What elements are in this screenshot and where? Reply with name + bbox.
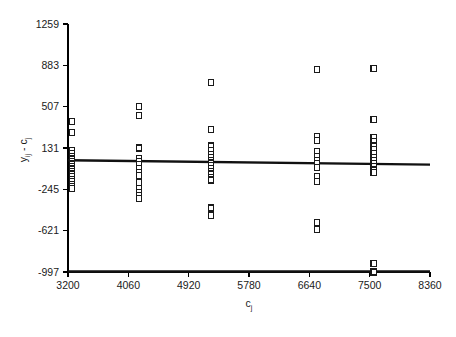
x-axis-ticks: 3200406049205780664075008360 <box>56 272 442 291</box>
y-tick-label: 883 <box>41 59 59 71</box>
x-tick-label: 8360 <box>418 279 442 291</box>
x-axis-title-text: cj <box>246 297 253 312</box>
data-markers-group <box>69 65 376 275</box>
data-point-marker <box>209 126 214 132</box>
data-point-marker <box>314 164 319 170</box>
y-axis-title-text: yij - cj <box>17 137 32 162</box>
x-tick-label: 7500 <box>358 279 382 291</box>
data-point-marker <box>314 219 319 225</box>
data-point-marker <box>314 137 319 143</box>
data-point-marker <box>371 117 376 123</box>
data-point-marker <box>314 67 319 73</box>
data-point-marker <box>209 79 214 85</box>
data-point-marker <box>209 205 214 211</box>
y-tick-label: 1259 <box>36 18 60 30</box>
data-point-marker <box>69 119 74 125</box>
y-tick-label: 131 <box>41 142 59 154</box>
plot-canvas: -997-621-2451315078831259 32004060492057… <box>0 0 456 337</box>
data-point-marker <box>371 261 376 267</box>
y-axis-title-minus: - <box>17 145 29 154</box>
data-point-marker <box>209 212 214 218</box>
y-tick-label: -621 <box>38 224 59 236</box>
y-tick-label: 507 <box>41 100 59 112</box>
x-tick-label: 3200 <box>56 279 80 291</box>
data-point-marker <box>314 226 319 232</box>
x-tick-label: 5780 <box>237 279 261 291</box>
x-tick-label: 4060 <box>117 279 141 291</box>
data-point-marker <box>137 103 142 109</box>
scatter-plot-figure: -997-621-2451315078831259 32004060492057… <box>0 0 456 337</box>
data-point-marker <box>314 179 319 185</box>
y-tick-label: -245 <box>38 183 59 195</box>
data-point-marker <box>371 65 376 71</box>
reference-line-group <box>68 160 430 271</box>
y-tick-label: -997 <box>38 266 59 278</box>
data-point-marker <box>69 130 74 136</box>
y-axis-title: yij - cj <box>17 137 32 162</box>
data-point-marker <box>209 177 214 183</box>
x-tick-label: 6640 <box>298 279 322 291</box>
data-point-marker <box>371 170 376 176</box>
y-axis-ticks: -997-621-2451315078831259 <box>36 18 68 278</box>
y-axis-title-j: j <box>24 137 32 140</box>
data-point-marker <box>137 113 142 119</box>
x-axis-title-j: j <box>250 304 253 312</box>
data-point-marker <box>69 186 74 192</box>
x-tick-label: 4920 <box>177 279 201 291</box>
data-point-marker <box>137 145 142 151</box>
data-point-marker <box>137 173 142 179</box>
x-axis-title: cj <box>246 297 253 312</box>
data-point-marker <box>371 269 376 275</box>
data-point-marker <box>137 196 142 202</box>
